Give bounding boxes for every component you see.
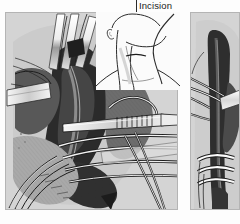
vessel-detail-artwork — [190, 12, 240, 210]
head-neck-profile-inset — [96, 12, 180, 90]
incision-label: Incision — [139, 0, 172, 11]
surgical-illustration-figure: Incision — [0, 0, 240, 224]
right-vessel-detail-panel — [190, 12, 240, 210]
incision-label-rule — [136, 0, 137, 12]
